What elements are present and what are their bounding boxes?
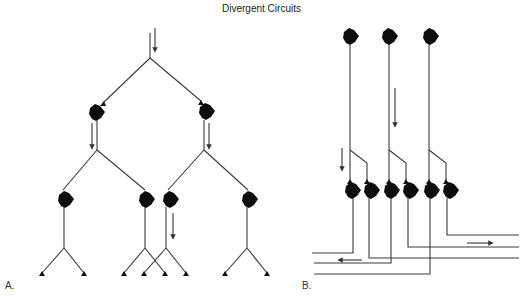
axon-branch: [168, 150, 204, 190]
neuron-soma: [58, 191, 74, 208]
axon-branch: [124, 248, 145, 273]
output-axon-right: [408, 198, 519, 247]
axon-branch: [63, 150, 97, 190]
neuron-soma: [345, 182, 361, 199]
neuron-soma: [163, 191, 179, 208]
axon-terminals: [39, 271, 270, 276]
neuron-soma: [382, 28, 398, 45]
neuron-soma: [424, 182, 440, 199]
neuron-soma: [403, 182, 419, 199]
divergent-circuits-diagram: [0, 0, 523, 297]
axon-branch: [97, 150, 145, 190]
output-axon-right: [447, 198, 519, 235]
panel-a: [39, 28, 270, 276]
panel-b: [312, 28, 519, 274]
neuron-soma: [242, 191, 258, 208]
neuron-soma: [199, 103, 215, 120]
axon-branch: [389, 150, 406, 180]
axon-branch: [350, 150, 367, 180]
neuron-soma: [139, 191, 155, 208]
axon-branch: [104, 58, 150, 102]
neuron-soma: [343, 28, 359, 45]
neuron-soma: [364, 182, 380, 199]
synapse-terminals: [347, 179, 449, 184]
axon-branch: [150, 58, 201, 101]
axon-branch: [225, 248, 247, 273]
axon-branch: [429, 150, 446, 180]
axon-branch: [64, 248, 84, 273]
neuron-soma: [89, 104, 105, 121]
neuron-soma: [443, 182, 459, 199]
axon-branch: [166, 248, 186, 273]
axon-branch: [204, 150, 248, 190]
neuron-soma: [384, 182, 400, 199]
synapse-terminal: [100, 101, 106, 106]
axon-branch: [42, 248, 64, 273]
output-axon-left: [312, 198, 353, 253]
neuron-soma: [423, 28, 439, 45]
synapse-terminal: [198, 100, 204, 105]
axon-branch: [247, 248, 267, 273]
